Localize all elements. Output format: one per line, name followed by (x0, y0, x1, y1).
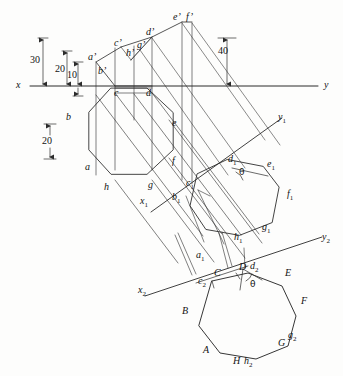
front-label-g-prime: g’ (137, 40, 145, 50)
axis-label-x: x (16, 80, 20, 90)
aux1-label-b1: b1 (172, 192, 181, 205)
aux1-label-f1: f1 (287, 189, 293, 202)
aux2-label-c2: c2 (198, 276, 206, 289)
axis-x2-y2 (145, 237, 322, 296)
aux1-label-a1: a1 (196, 250, 205, 263)
axis-label-x1: x1 (140, 196, 148, 209)
aux1-label-g1: g1 (262, 222, 271, 235)
dimension-label-20a: 20 (55, 64, 65, 74)
top-label-c: c (114, 88, 118, 98)
axis-label-y2: y2 (322, 232, 330, 245)
angle-label-theta-aux2: θ (250, 280, 256, 289)
top-label-a: a (85, 162, 90, 172)
front-label-b-prime: b’ (98, 66, 106, 76)
top-view-octagon (89, 88, 173, 174)
aux1-label-c1: c1 (186, 178, 194, 191)
geometry-linework (0, 0, 343, 376)
aux1-label-h1: h1 (234, 232, 243, 245)
front-label-h-prime: h’ (126, 48, 134, 58)
aux2-label-H: H (233, 356, 240, 366)
aux1-angle-theta (232, 168, 268, 180)
front-label-a-prime: a’ (88, 52, 96, 62)
front-label-f-prime: f’ (186, 12, 193, 22)
aux2-label-g2: g2 (288, 330, 297, 343)
top-label-f: f (172, 156, 175, 166)
dimension-label-10: 10 (67, 70, 77, 80)
top-label-d: d (146, 88, 151, 98)
aux2-label-d2: d2 (250, 261, 259, 274)
axis-label-x2: x2 (138, 285, 146, 298)
top-label-e: e (172, 118, 176, 128)
angle-label-theta-aux1: θ (239, 168, 245, 177)
aux2-label-B: B (182, 306, 188, 316)
front-label-d-prime: d’ (146, 27, 154, 37)
front-label-e-prime: e’ (173, 12, 181, 22)
front-view-edge (96, 22, 192, 86)
axis-label-y1: y1 (278, 112, 286, 125)
long-projectors-front (140, 23, 280, 175)
aux2-label-C: C (214, 268, 221, 278)
aux1-label-d1: d1 (228, 154, 237, 167)
axis-label-y: y (324, 80, 328, 90)
dimension-label-30: 30 (30, 55, 40, 65)
aux1-label-e1: e1 (267, 159, 275, 172)
top-label-g: g (148, 180, 153, 190)
aux2-label-G: G (278, 338, 285, 348)
aux2-label-D: D (239, 262, 246, 272)
aux2-label-A: A (203, 345, 209, 355)
top-label-b: b (66, 112, 71, 122)
dimension-label-40: 40 (218, 46, 228, 56)
aux2-label-h2: h2 (244, 356, 253, 369)
dimension-label-20b: 20 (42, 136, 52, 146)
front-label-c-prime: c’ (114, 38, 122, 48)
aux2-label-F: F (301, 296, 307, 306)
top-label-h: h (104, 182, 109, 192)
aux2-label-E: E (285, 268, 291, 278)
drawing-canvas: 30 20 10 40 20 x y x1 y1 x2 y2 a’ b’ c’ … (0, 0, 343, 376)
